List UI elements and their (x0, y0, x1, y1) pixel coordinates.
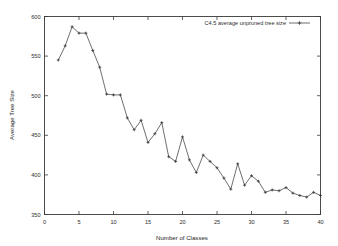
y-tick-label: 600 (31, 14, 40, 20)
x-tick-label: 40 (317, 219, 323, 225)
data-point-marker (271, 188, 274, 191)
data-point-marker (98, 66, 101, 69)
y-tick-labels: 350400450500550600 (31, 14, 40, 218)
x-tick-label: 20 (179, 219, 185, 225)
data-point-marker (278, 189, 281, 192)
data-point-marker (181, 135, 184, 138)
y-tick-label: 400 (31, 172, 40, 178)
data-point-markers (57, 25, 322, 198)
legend-marker-icon (298, 21, 302, 25)
x-tick-label: 15 (145, 219, 151, 225)
y-tick-label: 350 (31, 212, 40, 218)
data-point-marker (119, 93, 122, 96)
data-point-marker (84, 32, 87, 35)
x-tick-label: 25 (214, 219, 220, 225)
data-series (58, 27, 320, 197)
data-point-marker (236, 162, 239, 165)
y-tick-label: 550 (31, 53, 40, 59)
x-axis-title: Number of Classes (156, 234, 208, 241)
axes (45, 17, 321, 215)
data-point-marker (298, 194, 301, 197)
y-tick-label: 450 (31, 132, 40, 138)
x-tick-label: 5 (77, 219, 80, 225)
x-tick-labels: 0510152025303540 (43, 219, 324, 225)
y-tick-label: 500 (31, 93, 40, 99)
y-axis-title: Average Tree Size (8, 89, 15, 140)
x-tick-label: 10 (110, 219, 116, 225)
x-tick-label: 30 (248, 219, 254, 225)
legend-label: C4.5 average unpruned tree size (205, 20, 286, 26)
axis-ticks (45, 17, 321, 215)
line-chart: 350400450500550600 0510152025303540 C4.5… (0, 0, 338, 246)
data-point-marker (57, 59, 60, 62)
chart-legend[interactable]: C4.5 average unpruned tree size (205, 20, 310, 26)
data-point-marker (112, 93, 115, 96)
series-line (58, 27, 320, 197)
chart-container: 350400450500550600 0510152025303540 C4.5… (0, 0, 338, 246)
data-point-marker (64, 44, 67, 47)
data-point-marker (91, 49, 94, 52)
data-point-marker (188, 158, 191, 161)
data-point-marker (319, 194, 322, 197)
data-point-marker (105, 93, 108, 96)
x-tick-label: 35 (283, 219, 289, 225)
x-tick-label: 0 (43, 219, 46, 225)
data-point-marker (195, 171, 198, 174)
